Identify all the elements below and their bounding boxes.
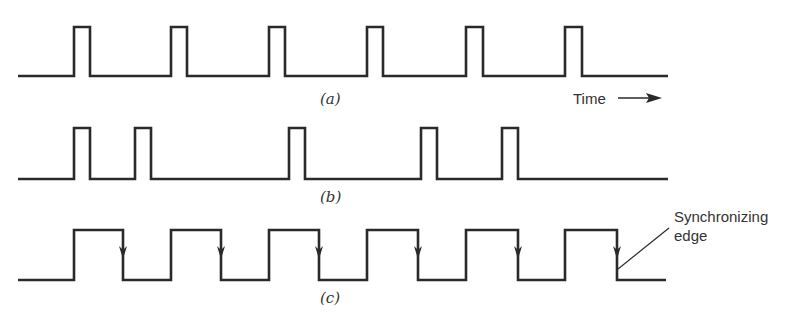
annotation-leader-line bbox=[618, 228, 669, 269]
synchronizing-edge-annotation: Synchronizing edge bbox=[618, 208, 768, 269]
waveform-b-trace bbox=[18, 128, 668, 179]
waveform-b: (b) bbox=[18, 128, 668, 206]
waveform-a-trace bbox=[18, 27, 668, 76]
waveform-diagram: (a) Time (b) (c) Synchronizing edge bbox=[0, 0, 810, 321]
caption-a: (a) bbox=[320, 90, 341, 108]
waveform-c-trace bbox=[18, 230, 666, 280]
waveform-figure: (a) Time (b) (c) Synchronizing edge bbox=[0, 0, 810, 321]
waveform-a: (a) Time bbox=[18, 27, 668, 108]
caption-b: (b) bbox=[320, 188, 341, 206]
synchronizing-edge-arrows bbox=[119, 246, 621, 259]
annotation-line-2: edge bbox=[674, 227, 707, 244]
waveform-c: (c) Synchronizing edge bbox=[18, 208, 768, 307]
annotation-line-1: Synchronizing bbox=[674, 208, 768, 225]
time-label: Time bbox=[573, 90, 606, 107]
caption-c: (c) bbox=[320, 289, 340, 307]
time-axis-label: Time bbox=[573, 90, 662, 107]
